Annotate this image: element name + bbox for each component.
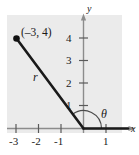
plotted-point [13, 35, 20, 42]
point-coordinate-label: (–3, 4) [21, 27, 52, 39]
x-tick-label-neg2: -2 [32, 136, 41, 147]
y-axis-label: y [87, 4, 91, 14]
y-tick-label-1: 1 [66, 100, 72, 111]
y-tick-label-3: 3 [66, 55, 72, 66]
coordinate-plane-figure: 1 2 3 4 -3 -2 -1 1 y x (–3, 4) r θ [0, 0, 139, 155]
radius-label: r [33, 71, 38, 83]
x-axis-label: x [131, 124, 135, 134]
x-tick-label-neg1: -1 [54, 136, 63, 147]
x-tick-label-neg3: -3 [9, 136, 18, 147]
x-tick-label-pos1: 1 [103, 136, 109, 147]
theta-label: θ [101, 108, 107, 120]
y-tick-label-4: 4 [66, 33, 72, 44]
y-tick-label-2: 2 [66, 78, 72, 89]
